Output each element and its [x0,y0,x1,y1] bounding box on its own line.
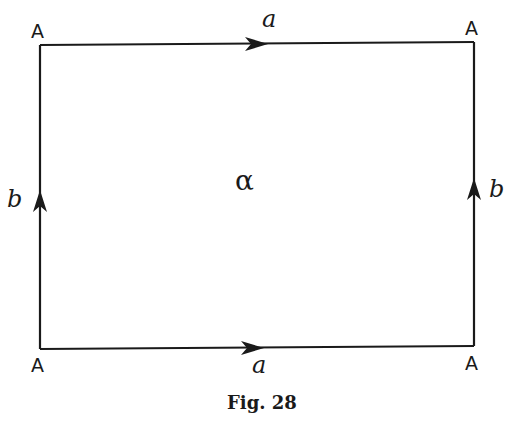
vertex-label-bottom-left: A [31,354,44,376]
torus-polygon-diagram: A A A A a a b b α Fig. 28 [0,0,519,431]
edge-label-top: a [262,5,276,33]
edge-label-bottom: a [252,351,266,379]
face-label: α [235,164,254,197]
vertex-label-top-right: A [465,17,478,39]
figure-caption: Fig. 28 [227,392,297,413]
vertex-label-bottom-right: A [465,352,478,374]
edge-label-left: b [7,185,22,213]
edge-label-right: b [489,175,504,203]
vertex-label-top-left: A [31,20,44,42]
